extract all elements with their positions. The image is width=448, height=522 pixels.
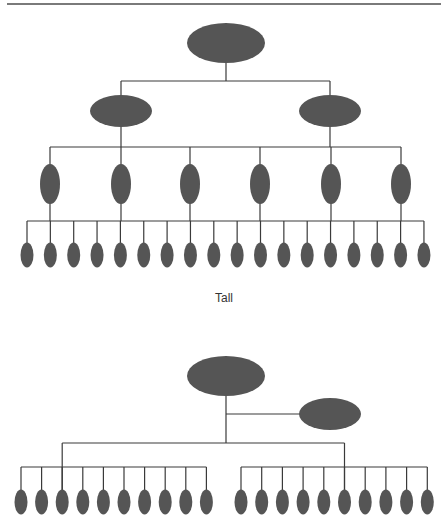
manager-node <box>90 95 152 127</box>
leaf-node <box>277 243 290 268</box>
leaf-node <box>297 490 310 515</box>
supervisor-node <box>321 164 341 204</box>
leaf-node <box>379 490 392 515</box>
leaf-node <box>161 243 174 268</box>
supervisor-node <box>250 164 270 204</box>
supervisor-node <box>180 164 200 204</box>
leaf-node <box>35 490 48 515</box>
org-charts <box>0 0 448 522</box>
leaf-node <box>417 243 430 268</box>
leaf-node <box>56 490 69 515</box>
root-node <box>187 23 265 63</box>
tall-caption: Tall <box>0 291 448 305</box>
leaf-node <box>15 490 28 515</box>
leaf-node <box>138 490 151 515</box>
leaf-node <box>137 243 150 268</box>
leaf-node <box>97 490 110 515</box>
manager-node <box>299 95 361 127</box>
leaf-node <box>301 243 314 268</box>
leaf-node <box>114 243 127 268</box>
leaf-node <box>359 490 372 515</box>
leaf-node <box>184 243 197 268</box>
leaf-node <box>394 243 407 268</box>
root-node <box>187 356 265 396</box>
leaf-node <box>235 490 248 515</box>
leaf-node <box>159 490 172 515</box>
leaf-node <box>207 243 220 268</box>
leaf-node <box>118 490 131 515</box>
assistant-node <box>299 398 361 430</box>
leaf-node <box>91 243 104 268</box>
leaf-node <box>231 243 244 268</box>
supervisor-node <box>40 164 60 204</box>
leaf-node <box>254 243 267 268</box>
supervisor-node <box>111 164 131 204</box>
leaf-node <box>276 490 289 515</box>
leaf-node <box>371 243 384 268</box>
leaf-node <box>400 490 413 515</box>
leaf-node <box>44 243 57 268</box>
leaf-node <box>338 490 351 515</box>
supervisor-node <box>391 164 411 204</box>
leaf-node <box>324 243 337 268</box>
leaf-node <box>317 490 330 515</box>
leaf-node <box>255 490 268 515</box>
leaf-node <box>347 243 360 268</box>
leaf-node <box>179 490 192 515</box>
leaf-node <box>76 490 89 515</box>
leaf-node <box>421 490 434 515</box>
leaf-node <box>200 490 213 515</box>
leaf-node <box>21 243 34 268</box>
leaf-node <box>67 243 80 268</box>
